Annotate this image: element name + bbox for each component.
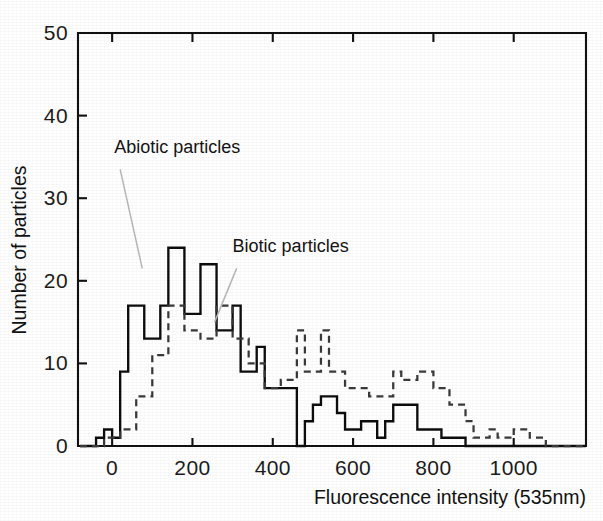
svg-text:30: 30 (44, 186, 68, 209)
y-axis-ticks (78, 116, 87, 364)
svg-text:10: 10 (44, 351, 68, 374)
svg-text:200: 200 (174, 456, 210, 479)
series-biotic-particles (80, 306, 586, 446)
svg-text:50: 50 (44, 21, 68, 44)
svg-text:0: 0 (56, 434, 68, 457)
x-axis-ticks (112, 438, 514, 446)
series-abiotic-particles (80, 248, 586, 446)
annotation-label-0: Abiotic particles (114, 137, 240, 157)
chart-annotations: Abiotic particlesBiotic particles (114, 137, 349, 322)
y-axis-title: Number of particles (8, 165, 30, 334)
histogram-chart: 02004006008001000 01020304050 Abiotic pa… (0, 0, 603, 521)
svg-text:600: 600 (335, 456, 371, 479)
svg-text:0: 0 (106, 456, 118, 479)
x-axis-title: Fluorescence intensity (535nm) (314, 486, 586, 508)
x-axis-tick-labels: 02004006008001000 (106, 456, 538, 479)
svg-text:40: 40 (44, 104, 68, 127)
figure-container: 02004006008001000 01020304050 Abiotic pa… (0, 0, 603, 521)
svg-text:20: 20 (44, 269, 68, 292)
x-axis-top-ticks (112, 33, 514, 42)
annotation-label-1: Biotic particles (233, 236, 349, 256)
y-axis-tick-labels: 01020304050 (44, 21, 68, 457)
svg-text:1000: 1000 (490, 456, 538, 479)
svg-text:400: 400 (255, 456, 291, 479)
svg-text:800: 800 (415, 456, 451, 479)
